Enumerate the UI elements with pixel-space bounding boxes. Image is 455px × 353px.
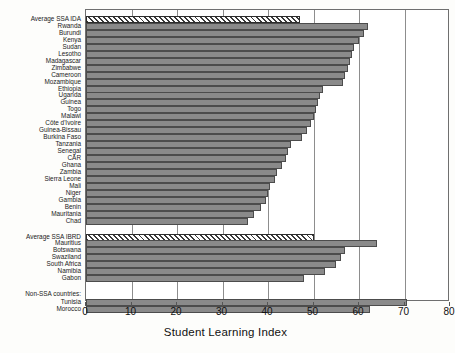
category-label: Madagascar xyxy=(46,57,81,64)
category-label: Guinea-Bissau xyxy=(39,126,81,133)
bar-row xyxy=(86,268,448,275)
bar-row xyxy=(86,72,448,79)
bar-mali xyxy=(86,183,270,190)
x-axis-title: Student Learning Index xyxy=(0,326,451,338)
category-label: Mauritania xyxy=(51,210,81,217)
bar-row xyxy=(86,204,448,211)
x-tick-label-70: 70 xyxy=(398,306,409,317)
bar-row xyxy=(86,218,448,225)
category-label: Gambia xyxy=(59,196,81,203)
bar-row xyxy=(86,44,448,51)
bar-row xyxy=(86,106,448,113)
bar-rows xyxy=(86,10,448,300)
bar-botswana xyxy=(86,247,345,254)
bar-gambia xyxy=(86,197,266,204)
x-tick-label-20: 20 xyxy=(170,306,181,317)
category-label: Senegal xyxy=(58,147,81,154)
category-axis-labels: Average SSA IDARwandaBurundiKenyaSudanLe… xyxy=(0,9,83,301)
category-label: Namibia xyxy=(58,267,81,274)
bar-row xyxy=(86,261,448,268)
bar-row xyxy=(86,254,448,261)
category-label: Zambia xyxy=(60,168,81,175)
category-label: Kenya xyxy=(63,36,81,43)
bar-malawi xyxy=(86,113,314,120)
x-tick-label-80: 80 xyxy=(443,306,454,317)
category-label: Zimbabwe xyxy=(52,64,81,71)
bar-niger xyxy=(86,190,268,197)
category-label: Mauritius xyxy=(55,239,81,246)
bar-row xyxy=(86,92,448,99)
bar-ghana xyxy=(86,162,282,169)
category-label: Malawi xyxy=(61,112,81,119)
bar-row xyxy=(86,197,448,204)
category-label: Rwanda xyxy=(58,22,81,29)
category-label: Guinea xyxy=(60,98,81,105)
category-label: Swaziland xyxy=(52,253,81,260)
bar-row xyxy=(86,275,448,282)
bar-cameroon xyxy=(86,72,345,79)
bar-row xyxy=(86,169,448,176)
bar-row xyxy=(86,240,448,247)
bar-row xyxy=(86,37,448,44)
bar-row xyxy=(86,30,448,37)
category-label: Uganda xyxy=(59,91,81,98)
bar-uganda xyxy=(86,92,320,99)
bar-gabon xyxy=(86,275,304,282)
bar-row xyxy=(86,162,448,169)
category-label: Niger xyxy=(66,189,81,196)
bar-zambia xyxy=(86,169,277,176)
bar-mauritius xyxy=(86,240,377,247)
bar-namibia xyxy=(86,268,325,275)
bar-benin xyxy=(86,204,261,211)
category-label: Lesotho xyxy=(58,50,81,57)
category-label: Côte d'Ivoire xyxy=(45,119,81,126)
bar-row xyxy=(86,247,448,254)
category-label: Mali xyxy=(69,182,81,189)
category-label: South Africa xyxy=(47,260,81,267)
bar-mozambique xyxy=(86,79,343,86)
bar-tanzania xyxy=(86,141,291,148)
bar-senegal xyxy=(86,148,288,155)
x-tick-label-50: 50 xyxy=(307,306,318,317)
bar-ethiopia xyxy=(86,86,323,93)
category-label: Botswana xyxy=(53,246,81,253)
bar-row xyxy=(86,86,448,93)
bar-row xyxy=(86,141,448,148)
bar-average-ssa-ibrd xyxy=(86,234,314,241)
category-label: Average SSA IBRD xyxy=(26,233,81,240)
category-label: CAR xyxy=(68,154,82,161)
category-label: Ghana xyxy=(62,161,81,168)
bar-mauritania xyxy=(86,211,254,218)
category-label: Sudan xyxy=(63,43,81,50)
bar-rwanda xyxy=(86,23,368,30)
group-label-non-ssa: Non-SSA countries: xyxy=(25,290,81,297)
x-tick-label-0: 0 xyxy=(82,306,88,317)
category-label: Chad xyxy=(66,217,81,224)
category-label: Morocco xyxy=(56,305,81,312)
x-tick-label-60: 60 xyxy=(352,306,363,317)
bar-row xyxy=(86,190,448,197)
category-label: Tunisia xyxy=(61,298,81,305)
bar-c-te-d-ivoire xyxy=(86,120,311,127)
bar-row xyxy=(86,155,448,162)
bar-row xyxy=(86,176,448,183)
bar-average-ssa-ida xyxy=(86,16,300,23)
x-tick-label-40: 40 xyxy=(261,306,272,317)
bar-row xyxy=(86,23,448,30)
bar-row xyxy=(86,51,448,58)
bar-guinea-bissau xyxy=(86,127,307,134)
bar-togo xyxy=(86,106,316,113)
category-label: Gabon xyxy=(62,274,81,281)
bar-row xyxy=(86,234,448,241)
bar-row xyxy=(86,120,448,127)
bar-row xyxy=(86,134,448,141)
bar-south-africa xyxy=(86,261,336,268)
bar-row xyxy=(86,113,448,120)
category-label: Benin xyxy=(65,203,81,210)
bar-row xyxy=(86,65,448,72)
bar-row xyxy=(86,79,448,86)
category-label: Tanzania xyxy=(55,140,81,147)
x-tick-label-30: 30 xyxy=(216,306,227,317)
category-label: Mozambique xyxy=(44,78,81,85)
